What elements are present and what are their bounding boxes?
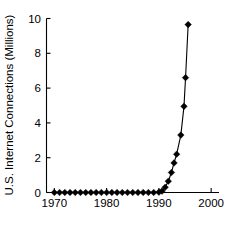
y-tick-label: 8 [35, 47, 41, 59]
y-tick-label: 4 [35, 117, 42, 129]
x-tick-label: 1970 [42, 197, 68, 209]
y-tick-label: 0 [35, 187, 41, 199]
y-tick-label: 6 [35, 82, 41, 94]
x-tick-label: 1990 [146, 197, 172, 209]
internet-connections-line-chart: U.S. Internet Connections (Millions) 024… [0, 0, 236, 225]
y-tick-label: 10 [28, 13, 41, 25]
x-tick-label: 1980 [94, 197, 120, 209]
x-tick-label: 2000 [198, 197, 224, 209]
y-tick-label: 2 [35, 152, 41, 164]
y-axis-title: U.S. Internet Connections (Millions) [3, 14, 15, 195]
chart-container: U.S. Internet Connections (Millions) 024… [0, 0, 236, 225]
